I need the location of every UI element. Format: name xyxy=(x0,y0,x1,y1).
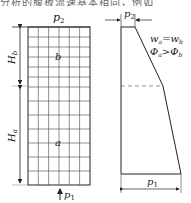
potential-inequality-label: Φa>Φb xyxy=(150,46,182,58)
region-a-label: a xyxy=(55,137,61,148)
left-grid xyxy=(12,27,90,200)
height-a-label: Ha xyxy=(6,129,19,143)
height-b-label: Hb xyxy=(6,50,19,65)
left-bottom-pressure-label: p1 xyxy=(64,189,75,202)
region-b-label: b xyxy=(55,51,61,62)
left-top-pressure-label: p2 xyxy=(53,11,65,25)
right-top-width-label: p2 xyxy=(124,8,135,21)
flow-diagram: p2 b a Hb Ha p1 p2 p1 wa=wb Φa>Φb xyxy=(0,0,191,203)
velocity-equality-label: wa=wb xyxy=(150,33,183,45)
right-bottom-width-label: p1 xyxy=(147,176,158,189)
